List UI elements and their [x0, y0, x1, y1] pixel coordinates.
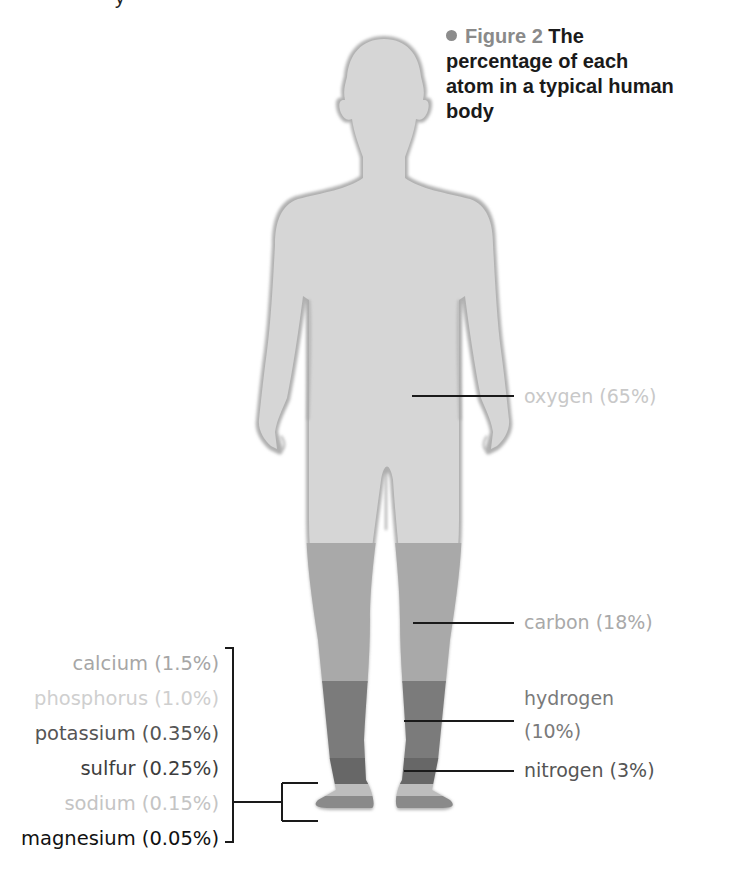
label-oxygen: oxygen (65%) [524, 384, 656, 408]
label-potassium: potassium (0.35%) [21, 716, 219, 751]
label-hydrogen: hydrogen [524, 686, 614, 710]
label-phosphorus: phosphorus (1.0%) [21, 681, 219, 716]
body-oxygen-region [259, 39, 509, 806]
trace-elements-bracket [225, 648, 318, 842]
label-hydrogen-percent: (10%) [524, 719, 581, 743]
feet-dark-band [280, 796, 500, 812]
label-sulfur: sulfur (0.25%) [21, 751, 219, 786]
label-magnesium: magnesium (0.05%) [21, 821, 219, 856]
label-nitrogen: nitrogen (3%) [524, 758, 655, 782]
label-sodium: sodium (0.15%) [21, 786, 219, 821]
label-carbon: carbon (18%) [524, 610, 653, 634]
feet-light-band [280, 784, 500, 796]
carbon-band [280, 543, 500, 683]
trace-element-labels: calcium (1.5%) phosphorus (1.0%) potassi… [21, 646, 219, 856]
label-calcium: calcium (1.5%) [21, 646, 219, 681]
